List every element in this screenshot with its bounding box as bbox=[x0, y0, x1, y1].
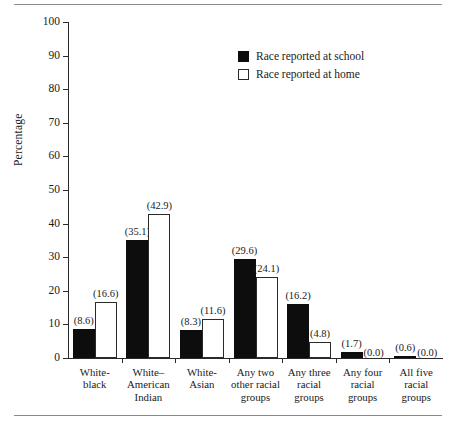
y-axis-tick-label: 30 bbox=[26, 251, 60, 263]
y-axis-tick bbox=[63, 190, 68, 191]
x-axis-category-label: Any two other racial groups bbox=[229, 366, 283, 403]
bar-home bbox=[148, 214, 170, 358]
y-axis-tick bbox=[63, 257, 68, 258]
top-divider-rule bbox=[14, 4, 442, 5]
y-axis-tick-label: 80 bbox=[26, 83, 60, 95]
y-axis-tick-label: 40 bbox=[26, 218, 60, 230]
chart-legend: Race reported at school Race reported at… bbox=[238, 49, 364, 85]
y-axis-tick bbox=[63, 291, 68, 292]
y-axis-tick-label: 0 bbox=[26, 352, 60, 364]
bar-value-label: (16.2) bbox=[278, 291, 318, 302]
bar-value-label: (11.6) bbox=[193, 306, 233, 317]
x-axis-tick bbox=[389, 358, 390, 363]
bar-home bbox=[202, 319, 224, 358]
x-axis-category-label: White- Asian bbox=[175, 366, 229, 391]
legend-swatch-filled-icon bbox=[238, 51, 249, 62]
x-axis-category-label: Any three racial groups bbox=[282, 366, 336, 403]
y-axis-tick bbox=[63, 123, 68, 124]
bar-value-label: (16.6) bbox=[86, 289, 126, 300]
x-axis-category-label: All five racial groups bbox=[389, 366, 443, 403]
bar-home bbox=[256, 277, 278, 358]
y-axis-tick-label: 90 bbox=[26, 50, 60, 62]
bar-value-label: (4.8) bbox=[300, 329, 340, 340]
y-axis-tick-label: 60 bbox=[26, 150, 60, 162]
bar-value-label: (24.1) bbox=[247, 264, 287, 275]
legend-label-school: Race reported at school bbox=[256, 51, 364, 63]
legend-item-school: Race reported at school bbox=[238, 49, 364, 64]
x-axis-tick bbox=[175, 358, 176, 363]
y-axis-tick bbox=[63, 156, 68, 157]
y-axis-tick-label: 20 bbox=[26, 285, 60, 297]
x-axis-category-label: White– American Indian bbox=[122, 366, 176, 403]
y-axis-tick-label: 10 bbox=[26, 318, 60, 330]
x-axis-tick bbox=[282, 358, 283, 363]
legend-label-home: Race reported at home bbox=[256, 69, 360, 81]
bar-value-label: (0.0) bbox=[407, 348, 447, 359]
bar-home bbox=[95, 302, 117, 358]
y-axis-tick bbox=[63, 358, 68, 359]
x-axis-category-label: White- black bbox=[68, 366, 122, 391]
figure-bar-chart: Percentage 0102030405060708090100(8.6)(1… bbox=[0, 0, 455, 426]
bar-school bbox=[73, 329, 95, 358]
y-axis-tick-label: 70 bbox=[26, 117, 60, 129]
y-axis-tick-label: 50 bbox=[26, 184, 60, 196]
bar-home bbox=[309, 342, 331, 358]
legend-swatch-open-icon bbox=[238, 69, 249, 80]
bar-value-label: (29.6) bbox=[225, 246, 265, 257]
y-axis-tick bbox=[63, 56, 68, 57]
y-axis-tick bbox=[63, 89, 68, 90]
y-axis-line bbox=[68, 22, 69, 358]
x-axis-tick bbox=[336, 358, 337, 363]
x-axis-category-label: Any four racial groups bbox=[336, 366, 390, 403]
y-axis-tick bbox=[63, 224, 68, 225]
bar-school bbox=[180, 330, 202, 358]
y-axis-tick bbox=[63, 22, 68, 23]
bottom-divider-rule bbox=[14, 415, 442, 416]
legend-item-home: Race reported at home bbox=[238, 67, 364, 82]
y-axis-title: Percentage bbox=[12, 114, 24, 166]
bar-school bbox=[126, 240, 148, 358]
y-axis-tick-label: 100 bbox=[26, 16, 60, 28]
x-axis-tick bbox=[229, 358, 230, 363]
x-axis-tick bbox=[122, 358, 123, 363]
bar-value-label: (42.9) bbox=[139, 201, 179, 212]
